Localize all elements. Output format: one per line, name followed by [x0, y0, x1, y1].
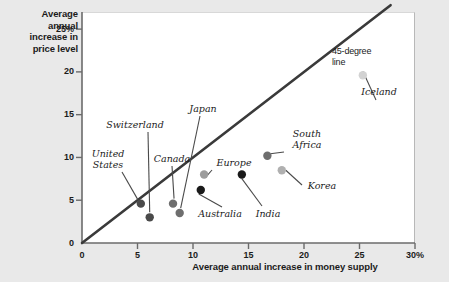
- data-point-label: India: [250, 208, 286, 219]
- data-point: [197, 186, 205, 194]
- x-tick-label: 5: [121, 250, 155, 260]
- x-tick-label: 10: [176, 250, 210, 260]
- y-tick-label: 0: [40, 238, 74, 248]
- y-tick-label: 10: [40, 152, 74, 162]
- data-point: [359, 71, 367, 79]
- data-point-label: South Africa: [283, 128, 331, 150]
- chart-figure: Average annual increase in price level A…: [0, 0, 449, 282]
- x-axis-ticks: [138, 243, 416, 249]
- data-point: [137, 199, 145, 207]
- data-point-label: Switzerland: [100, 119, 170, 130]
- data-point: [200, 170, 208, 178]
- data-point-label: Australia: [190, 208, 250, 219]
- data-point: [175, 209, 183, 217]
- x-tick-label: 30%: [398, 250, 432, 260]
- data-point-label: Japan: [182, 103, 224, 114]
- y-tick-label: 15: [40, 109, 74, 119]
- data-point: [263, 152, 271, 160]
- data-point-label: Iceland: [355, 86, 403, 97]
- data-point: [278, 166, 286, 174]
- label-leader-lines: [122, 71, 376, 212]
- x-tick-label: 25: [343, 250, 377, 260]
- data-points: [137, 71, 367, 221]
- data-point-label: Korea: [302, 180, 342, 191]
- forty-five-degree-line-label: 45-degree line: [332, 46, 371, 67]
- data-point-label: United States: [84, 148, 132, 170]
- x-tick-label: 15: [232, 250, 266, 260]
- y-tick-label: 25%: [40, 24, 74, 34]
- data-point-label: Canada: [146, 153, 198, 164]
- y-tick-label: 5: [40, 195, 74, 205]
- y-tick-label: 20: [40, 66, 74, 76]
- data-point: [169, 199, 177, 207]
- x-tick-label: 20: [287, 250, 321, 260]
- x-axis-title: Average annual increase in money supply: [140, 261, 430, 273]
- y-axis-ticks: [76, 29, 82, 200]
- data-point: [146, 213, 154, 221]
- data-point-label: Europe: [210, 157, 258, 168]
- x-tick-label: 0: [65, 250, 99, 260]
- data-point: [238, 170, 246, 178]
